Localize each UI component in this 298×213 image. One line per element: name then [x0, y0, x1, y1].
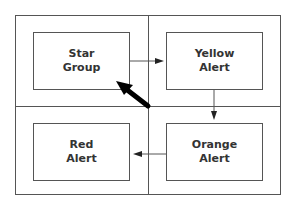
- edge-yellow-to-orange: [211, 90, 217, 120]
- edge-orange-to-red: [133, 151, 166, 157]
- edge-star-to-yellow: [130, 58, 164, 64]
- arrowhead-icon: [211, 111, 217, 120]
- bold-arrow-icon: [116, 81, 148, 106]
- arrowhead-icon: [155, 58, 164, 64]
- arrowhead-icon: [133, 151, 142, 157]
- edges-layer: [0, 0, 298, 213]
